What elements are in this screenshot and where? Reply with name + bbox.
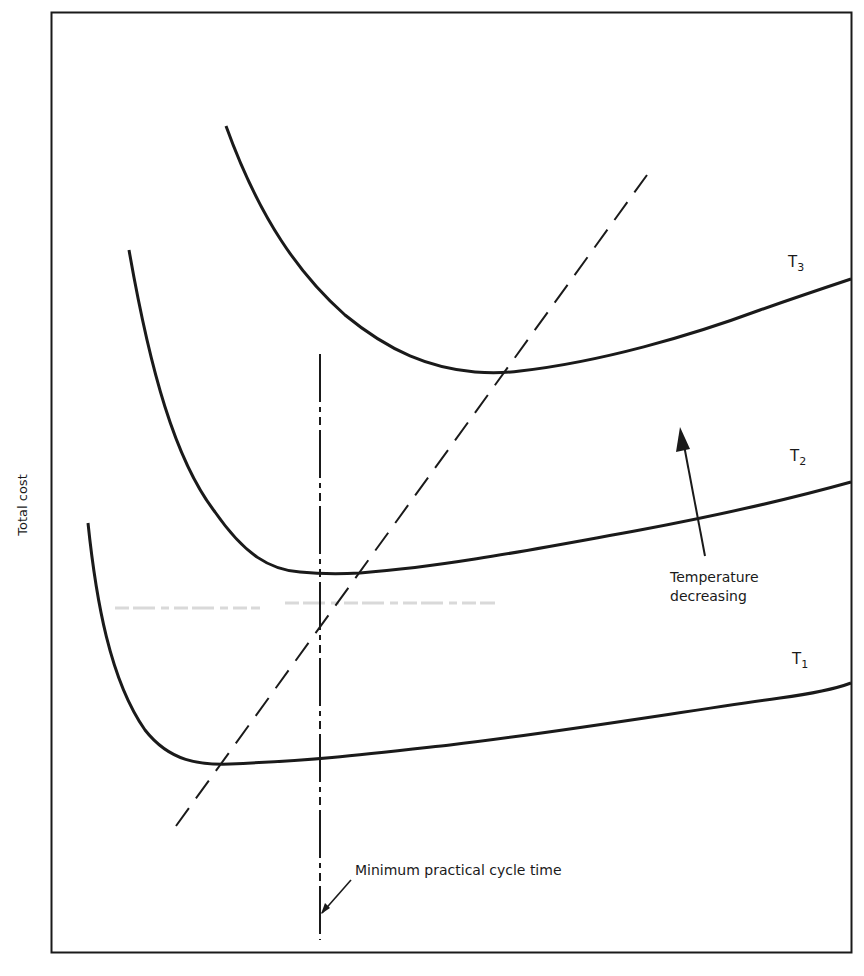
curve-label-sub: 1 — [801, 658, 808, 671]
curve-label-t3: T3 — [788, 253, 804, 274]
plot-frame — [52, 13, 852, 953]
temperature-label-line1: Temperature — [670, 568, 759, 587]
curve-label-sub: 3 — [797, 261, 804, 274]
arrow-up-icon — [676, 427, 690, 452]
smudge-mark — [115, 603, 495, 608]
curve-label-base: T — [792, 650, 801, 668]
curve-label-t2: T2 — [790, 447, 806, 468]
curve-t2 — [129, 250, 851, 574]
diagram-canvas — [0, 0, 864, 976]
min-cycle-annotation: Minimum practical cycle time — [355, 861, 562, 880]
curve-label-base: T — [790, 447, 799, 465]
temperature-annotation: Temperature decreasing — [670, 568, 759, 606]
y-axis-label: Total cost — [15, 474, 30, 535]
curve-t3 — [226, 126, 851, 373]
temperature-arrow-shaft — [683, 440, 705, 556]
curve-label-t1: T1 — [792, 650, 808, 671]
curve-label-sub: 2 — [799, 455, 806, 468]
curve-label-base: T — [788, 253, 797, 271]
temperature-label-line2: decreasing — [670, 587, 759, 606]
